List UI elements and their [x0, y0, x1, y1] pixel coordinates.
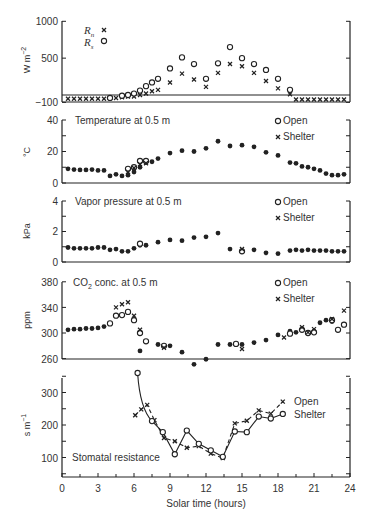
panel-3-frame	[62, 201, 350, 262]
panel-5-frame	[62, 376, 350, 477]
panel-2-frame	[62, 120, 350, 183]
panel-1-frame	[62, 21, 350, 102]
panel-4-frame	[62, 282, 350, 359]
multi-panel-chart	[0, 0, 373, 514]
